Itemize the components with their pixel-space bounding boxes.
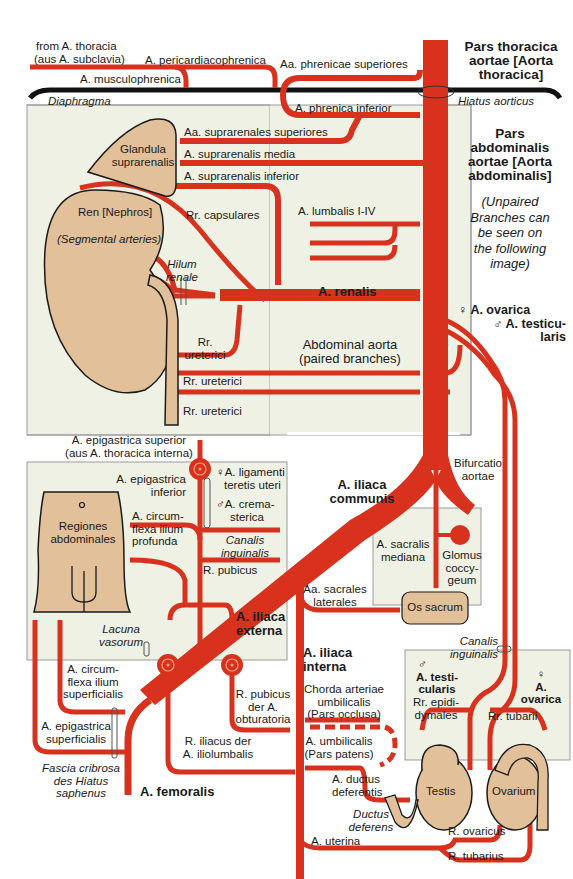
label-abdominal-aorta: Abdominal aorta (paired branches) <box>290 338 410 366</box>
label-phrenica-inferior: A. phrenica inferior <box>295 102 392 115</box>
label-renalis: A. renalis <box>318 285 377 299</box>
label-umbilicalis-patens: A. umbilicalis (Pars patens) <box>303 735 375 760</box>
label-hilum-renale: Hilum renale <box>162 258 202 283</box>
label-sacralis-mediana: A. sacralis mediana <box>374 538 432 563</box>
label-r-tubarius: R. tubarius <box>448 850 504 863</box>
label-diaphragma: Diaphragma <box>48 95 111 108</box>
label-iliaca-externa: A. iliaca externa <box>236 610 285 638</box>
label-sacrales-laterales: Aa. sacrales laterales <box>300 583 370 608</box>
label-glandula-suprarenalis: Glandula suprarenalis <box>108 143 178 168</box>
label-pubicus-obturatoria: R. pubicus der A. obturatoria <box>234 688 292 726</box>
label-os-sacrum: Os sacrum <box>402 601 468 614</box>
label-ovarium: Ovarium <box>492 785 535 798</box>
label-suprarenales-superiores: Aa. suprarenales superiores <box>184 126 328 139</box>
label-lacuna-vasorum: Lacuna vasorum <box>96 623 146 648</box>
label-ureterici-2: Rr. ureterici <box>183 375 242 388</box>
glomus-coccygeum <box>450 525 470 545</box>
label-pars-abdominalis: Pars abdominalis aortae [Aorta abdominal… <box>450 127 570 183</box>
label-lumbalis: A. lumbalis I-IV <box>298 205 375 218</box>
label-ovarica: ♀ A. ovarica <box>458 304 530 317</box>
label-cremasterica: ♂A. crema- sterica <box>216 498 274 523</box>
label-phrenicae-superiores: Aa. phrenicae superiores <box>280 58 408 71</box>
label-musculophrenica: A. musculophrenica <box>80 73 181 86</box>
label-iliacus-iliolumbalis: R. iliacus der A. iliolumbalis <box>178 735 258 760</box>
label-from-thoracia: from A. thoracia <box>36 40 117 53</box>
label-ren: Ren [Nephros] <box>78 206 152 219</box>
label-canalis-inguinalis-1: Canalis inguinalis <box>215 534 275 559</box>
label-canalis-inguinalis-2: Canalis inguinalis <box>440 635 498 660</box>
label-femoralis: A. femoralis <box>140 785 214 799</box>
label-fascia-cribrosa: Fascia cribrosa des Hiatus saphenus <box>38 762 124 800</box>
label-epigastrica-inferior: A. epigastrica inferior <box>110 473 186 498</box>
label-ductus-deferens: Ductus deferens <box>346 808 396 833</box>
label-hiatus-aorticus: Hiatus aorticus <box>458 95 534 108</box>
label-testis: Testis <box>426 785 455 798</box>
label-ligamenti-teretis: ♀A. ligamenti teretis uteri <box>216 466 285 491</box>
label-regiones-abdominales: Regiones abdominales <box>40 520 126 545</box>
label-pars-thoracica: Pars thoracica aortae [Aorta thoracica] <box>452 40 570 82</box>
label-chorda-umbilicalis: Chorda arteriae umbilicalis (Pars occlus… <box>302 683 386 721</box>
label-pericardiacophrenica: A. pericardiacophrenica <box>145 54 266 67</box>
label-r-ovaricus: R. ovaricus <box>448 825 506 838</box>
label-suprarenalis-media: A. suprarenalis media <box>184 148 295 161</box>
label-suprarenalis-inferior: A. suprarenalis inferior <box>184 170 299 183</box>
label-circumflexa-superficialis: A. circum- flexa ilium superficialis <box>62 663 124 701</box>
label-bifurcatio-aortae: Bifurcatio aortae <box>448 457 508 482</box>
label-ureterici-3: Rr. ureterici <box>183 405 242 418</box>
label-ductus-deferentis: A. ductus deferentis <box>332 773 383 798</box>
label-ureterici-1: Rr. ureterici <box>182 336 228 361</box>
label-circumflexa-profunda: A. circum- flexa ilium profunda <box>132 510 184 548</box>
label-epigastrica-superficialis: A. epigastrica superficialis <box>40 720 112 745</box>
label-testicularis-male: ♂ A. testi- cularis <box>410 658 464 696</box>
aorta <box>423 40 448 470</box>
label-unpaired-note: (Unpaired Branches can be seen on the fo… <box>455 194 565 272</box>
label-ovarica-female: ♀ A. ovarica <box>518 668 564 706</box>
label-tubarii: Rr. tubarii <box>488 710 537 723</box>
label-capsulares: Rr. capsulares <box>186 209 260 222</box>
label-epididymales: Rr. epidi- dymales <box>408 696 464 721</box>
label-uterina: A. uterina <box>311 835 360 848</box>
label-r-pubicus: R. pubicus <box>203 564 257 577</box>
label-glomus-coccygeum: Glomus coccy- geum <box>438 549 486 587</box>
label-epigastrica-superior: A. epigastrica superior (aus A. thoracic… <box>54 434 204 459</box>
label-aus-subclavia: (aus A. subclavia) <box>34 53 125 66</box>
label-iliaca-interna: A. iliaca interna <box>303 646 352 674</box>
regiones-abdominales-shape <box>34 492 130 612</box>
label-iliaca-communis: A. iliaca communis <box>322 478 402 506</box>
label-testicularis: ♂ A. testicu- laris <box>468 318 566 343</box>
label-segmental-arteries: (Segmental arteries) <box>57 233 161 246</box>
